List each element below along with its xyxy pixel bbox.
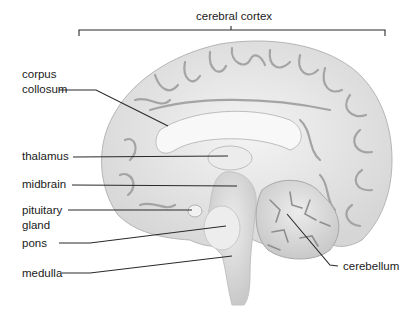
label-pituitary-line1: pituitary (22, 203, 62, 217)
medulla-leader (62, 256, 232, 273)
label-thalamus: thalamus (22, 149, 69, 163)
label-pons: pons (22, 236, 47, 250)
label-midbrain: midbrain (22, 177, 66, 191)
label-pituitary-line2: gland (22, 218, 50, 232)
brain-diagram: cerebral cortex corpus collosum thalamus… (0, 0, 420, 314)
label-medulla: medulla (22, 266, 62, 280)
thalamus (208, 146, 252, 170)
label-corpus-collosum-line2: collosum (22, 82, 67, 96)
pituitary-gland (188, 205, 202, 217)
cerebral-cortex-bracket (79, 26, 385, 36)
label-cerebral-cortex: cerebral cortex (196, 9, 272, 23)
label-corpus-collosum-line1: corpus (22, 67, 57, 81)
label-cerebellum: cerebellum (343, 259, 399, 273)
